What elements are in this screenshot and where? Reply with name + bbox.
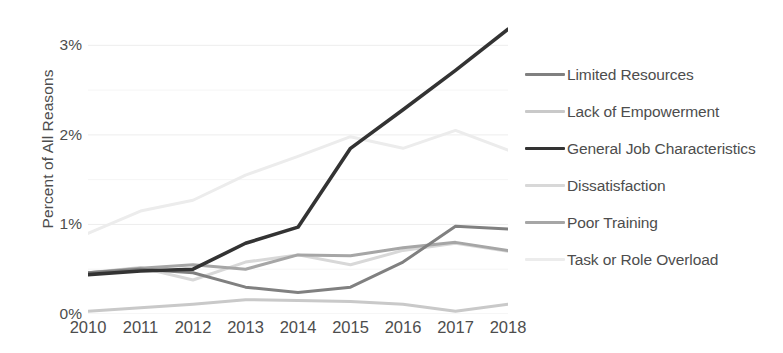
legend-item[interactable]: Lack of Empowerment	[525, 93, 783, 130]
legend-item[interactable]: Dissatisfaction	[525, 167, 783, 204]
y-axis-tick-label: 2%	[36, 126, 82, 144]
line-chart: Percent of All Reasons 0%1%2%3% 20102011…	[0, 0, 783, 353]
legend-item[interactable]: Task or Role Overload	[525, 241, 783, 278]
legend-item[interactable]: General Job Characteristics	[525, 130, 783, 167]
legend-item-label: Poor Training	[567, 214, 658, 232]
legend-item-label: Task or Role Overload	[567, 251, 718, 269]
x-axis-tick-label: 2012	[163, 318, 223, 337]
legend-item-label: Lack of Empowerment	[567, 103, 719, 121]
x-axis-tick-label: 2014	[268, 318, 328, 337]
legend-color-swatch	[525, 184, 565, 187]
chart-legend: Limited ResourcesLack of EmpowermentGene…	[525, 56, 783, 278]
x-axis-tick-label: 2011	[111, 318, 171, 337]
series-line	[88, 242, 508, 272]
series-line	[88, 226, 508, 292]
series-line	[88, 29, 508, 274]
legend-color-swatch	[525, 147, 565, 151]
x-axis-tick-label: 2015	[321, 318, 381, 337]
y-axis-tick-labels: 0%1%2%3%	[34, 0, 82, 353]
x-axis-tick-labels: 201020112012201320142015201620172018	[88, 318, 508, 348]
legend-item-label: General Job Characteristics	[567, 140, 756, 158]
plot-area	[88, 14, 508, 314]
series-line	[88, 300, 508, 312]
legend-color-swatch	[525, 258, 565, 261]
y-axis-tick-label: 1%	[36, 215, 82, 233]
legend-color-swatch	[525, 221, 565, 224]
y-axis-tick-label: 3%	[36, 36, 82, 54]
legend-item-label: Limited Resources	[567, 66, 694, 84]
series-line	[88, 243, 508, 280]
legend-color-swatch	[525, 110, 565, 113]
x-axis-tick-label: 2018	[478, 318, 538, 337]
x-axis-tick-label: 2016	[373, 318, 433, 337]
x-axis-tick-label: 2017	[426, 318, 486, 337]
x-axis-tick-label: 2013	[216, 318, 276, 337]
legend-item[interactable]: Poor Training	[525, 204, 783, 241]
legend-item-label: Dissatisfaction	[567, 177, 665, 195]
plot-svg	[88, 14, 508, 314]
legend-item[interactable]: Limited Resources	[525, 56, 783, 93]
legend-color-swatch	[525, 73, 565, 76]
x-axis-tick-label: 2010	[58, 318, 118, 337]
series-line	[88, 130, 508, 233]
